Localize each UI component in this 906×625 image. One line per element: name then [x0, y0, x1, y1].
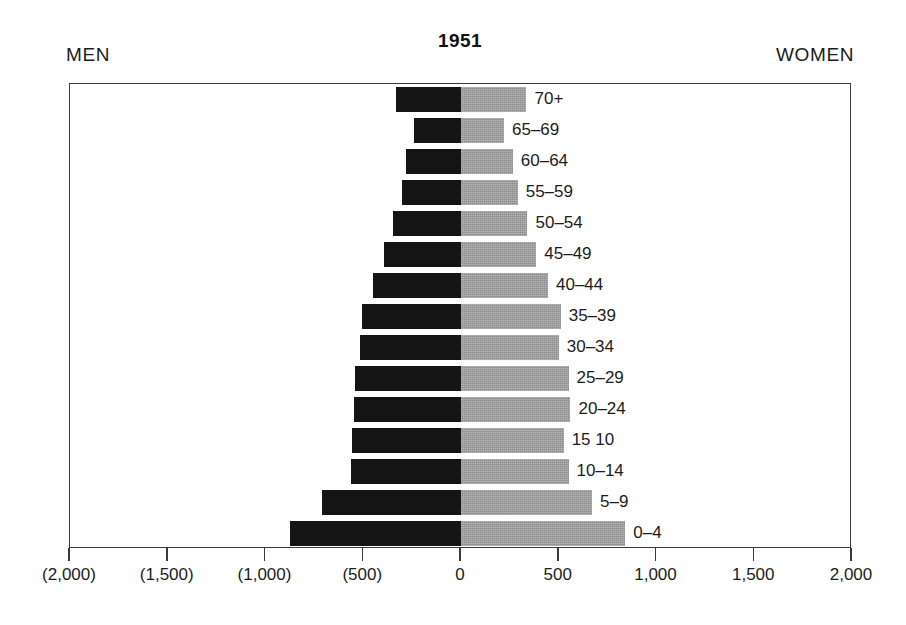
- x-axis-tick-label: 1,500: [732, 565, 775, 585]
- age-group-label: 15 10: [572, 426, 615, 454]
- x-axis-tick-label: (2,000): [42, 565, 96, 585]
- x-axis-tick: [655, 548, 657, 561]
- x-axis-tick-label: 1,000: [634, 565, 677, 585]
- bar-women: [461, 521, 625, 546]
- bar-women: [461, 490, 592, 515]
- bar-women: [461, 428, 564, 453]
- bar-women: [461, 459, 569, 484]
- pyramid-row: 65–69: [70, 115, 850, 146]
- bar-women: [461, 366, 569, 391]
- x-axis-tick: [264, 548, 266, 561]
- pyramid-row: 30–34: [70, 332, 850, 363]
- age-group-label: 50–54: [535, 209, 582, 237]
- age-group-label: 55–59: [526, 178, 573, 206]
- age-group-label: 60–64: [521, 147, 568, 175]
- pyramid-row: 15 10: [70, 425, 850, 456]
- age-group-label: 40–44: [556, 271, 603, 299]
- bar-men: [406, 149, 461, 174]
- x-axis-tick: [557, 548, 559, 561]
- plot-frame: 70+65–6960–6455–5950–5445–4940–4435–3930…: [69, 83, 851, 548]
- plot-area: 70+65–6960–6455–5950–5445–4940–4435–3930…: [70, 84, 850, 547]
- pyramid-row: 5–9: [70, 487, 850, 518]
- chart-title-text: 1951: [438, 30, 482, 51]
- pyramid-row: 35–39: [70, 301, 850, 332]
- age-group-label: 45–49: [544, 240, 591, 268]
- bar-men: [290, 521, 461, 546]
- x-axis-tick-label: (1,000): [238, 565, 292, 585]
- bar-men: [362, 304, 461, 329]
- pyramid-row: 70+: [70, 84, 850, 115]
- age-group-label: 0–4: [633, 519, 661, 547]
- x-axis-tick: [166, 548, 168, 561]
- x-axis-tick: [850, 548, 852, 561]
- bar-women: [461, 149, 513, 174]
- bar-women: [461, 335, 559, 360]
- x-axis-tick: [68, 548, 70, 561]
- age-group-label: 20–24: [578, 395, 625, 423]
- bar-men: [393, 211, 461, 236]
- x-axis-tick: [459, 548, 461, 561]
- age-group-label: 35–39: [569, 302, 616, 330]
- bar-men: [354, 397, 461, 422]
- population-pyramid-chart: MEN 1951 WOMEN 70+65–6960–6455–5950–5445…: [0, 0, 906, 625]
- bar-men: [414, 118, 461, 143]
- bar-men: [351, 459, 461, 484]
- bar-women: [461, 211, 527, 236]
- bar-women: [461, 87, 526, 112]
- bar-men: [402, 180, 461, 205]
- pyramid-row: 50–54: [70, 208, 850, 239]
- bar-men: [360, 335, 461, 360]
- pyramid-row: 20–24: [70, 394, 850, 425]
- bar-men: [373, 273, 461, 298]
- pyramid-row: 40–44: [70, 270, 850, 301]
- x-axis-tick-label: (1,500): [140, 565, 194, 585]
- bar-women: [461, 397, 570, 422]
- bar-women: [461, 242, 536, 267]
- pyramid-row: 25–29: [70, 363, 850, 394]
- bar-men: [322, 490, 461, 515]
- bar-women: [461, 180, 518, 205]
- bar-men: [396, 87, 461, 112]
- chart-title: 1951: [0, 30, 906, 52]
- x-axis-tick: [753, 548, 755, 561]
- women-axis-label: WOMEN: [776, 44, 854, 66]
- pyramid-row: 10–14: [70, 456, 850, 487]
- pyramid-row: 55–59: [70, 177, 850, 208]
- bar-women: [461, 304, 561, 329]
- x-axis-tick-label: 500: [544, 565, 572, 585]
- pyramid-row: 45–49: [70, 239, 850, 270]
- x-axis-tick-label: 0: [455, 565, 464, 585]
- bar-men: [352, 428, 461, 453]
- x-axis-tick-label: (500): [342, 565, 382, 585]
- pyramid-row: 60–64: [70, 146, 850, 177]
- age-group-label: 70+: [534, 85, 563, 113]
- pyramid-row: 0–4: [70, 518, 850, 549]
- bar-women: [461, 273, 548, 298]
- age-group-label: 10–14: [577, 457, 624, 485]
- age-group-label: 30–34: [567, 333, 614, 361]
- age-group-label: 65–69: [512, 116, 559, 144]
- x-axis-tick-label: 2,000: [830, 565, 873, 585]
- x-axis-tick: [362, 548, 364, 561]
- age-group-label: 25–29: [577, 364, 624, 392]
- bar-women: [461, 118, 504, 143]
- bar-men: [384, 242, 461, 267]
- age-group-label: 5–9: [600, 488, 628, 516]
- bar-men: [355, 366, 461, 391]
